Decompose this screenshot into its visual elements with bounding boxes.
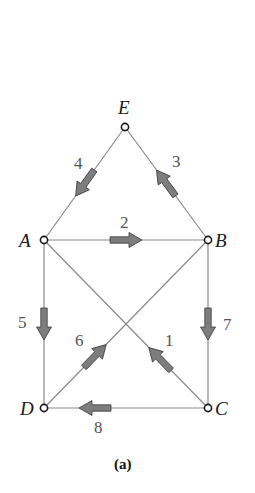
edge-label-1: 1 — [165, 331, 174, 350]
edge-label-2: 2 — [120, 213, 129, 232]
node-label-E: E — [117, 97, 130, 118]
edge-labels: 4 3 2 5 7 6 1 8 — [18, 152, 232, 437]
node-label-C: C — [215, 398, 228, 419]
directed-graph-diagram: E A B D C 4 3 2 5 7 6 1 8 (a) — [0, 0, 255, 493]
edge-label-6: 6 — [75, 331, 84, 350]
node-E — [121, 123, 128, 130]
edge-label-3: 3 — [172, 152, 181, 171]
figure-caption: (a) — [114, 456, 132, 473]
arrow-icon-edge-7 — [201, 308, 216, 340]
node-C — [204, 404, 211, 411]
node-label-B: B — [215, 230, 227, 251]
edges — [44, 127, 208, 408]
edge-label-7: 7 — [223, 315, 232, 334]
node-B — [204, 236, 211, 243]
edge-label-5: 5 — [18, 313, 27, 332]
node-label-D: D — [19, 398, 34, 419]
arrow-icon-edge-2 — [110, 233, 142, 248]
edge-label-4: 4 — [74, 154, 83, 173]
nodes — [40, 123, 211, 411]
edge-label-8: 8 — [94, 418, 103, 437]
node-D — [40, 404, 47, 411]
node-labels: E A B D C — [17, 97, 228, 419]
node-A — [40, 236, 47, 243]
edge-arrows — [37, 166, 216, 416]
node-label-A: A — [17, 230, 31, 251]
arrow-icon-edge-5 — [37, 308, 52, 340]
arrow-icon-edge-8 — [79, 401, 111, 416]
